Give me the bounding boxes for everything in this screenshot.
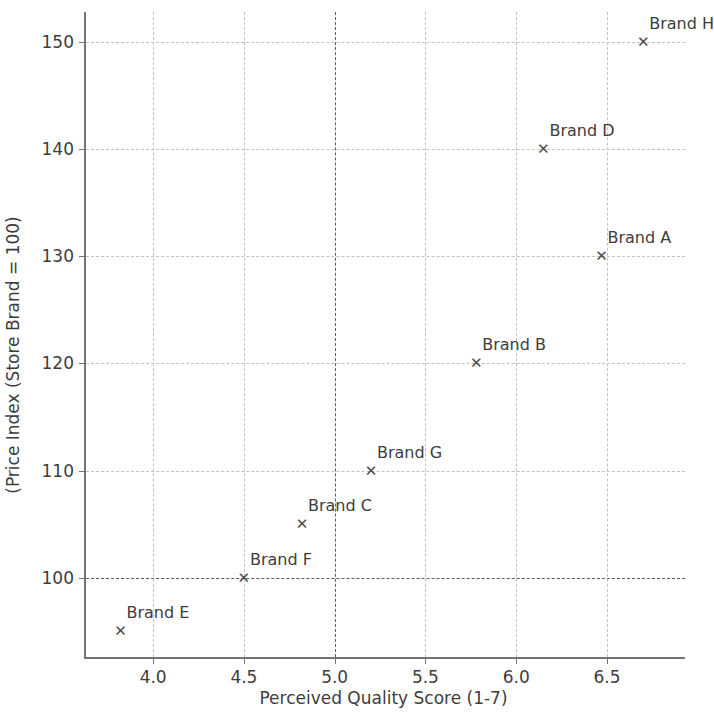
x-axis-tick-label: 4.5 bbox=[230, 667, 257, 687]
y-axis-tick bbox=[79, 363, 86, 364]
gridline-vertical bbox=[153, 12, 154, 657]
x-axis-tick-label: 6.5 bbox=[593, 667, 620, 687]
y-axis-tick-label: 140 bbox=[42, 139, 74, 159]
data-point-marker-icon: ✕ bbox=[238, 570, 251, 585]
y-axis-tick-label: 100 bbox=[42, 568, 74, 588]
x-axis-tick-label: 6.0 bbox=[503, 667, 530, 687]
data-point-label: Brand A bbox=[608, 228, 672, 247]
y-axis-tick-label: 130 bbox=[42, 246, 74, 266]
x-axis-tick-label: 5.5 bbox=[412, 667, 439, 687]
reference-line-vertical bbox=[335, 12, 336, 657]
data-point-label: Brand D bbox=[549, 121, 614, 140]
y-axis-tick bbox=[79, 578, 86, 579]
y-axis-tick-label: 150 bbox=[42, 32, 74, 52]
data-point-label: Brand B bbox=[482, 335, 546, 354]
y-axis-tick bbox=[79, 471, 86, 472]
y-axis-label: (Price Index (Store Brand = 100) bbox=[0, 26, 26, 684]
y-axis-tick-label: 120 bbox=[42, 353, 74, 373]
gridline-horizontal bbox=[86, 42, 685, 43]
x-axis-tick bbox=[153, 657, 154, 664]
plot-area: ✕Brand H✕Brand D✕Brand A✕Brand B✕Brand G… bbox=[84, 12, 685, 659]
gridline-horizontal bbox=[86, 471, 685, 472]
x-axis-tick bbox=[516, 657, 517, 664]
plot-inner: ✕Brand H✕Brand D✕Brand A✕Brand B✕Brand G… bbox=[86, 12, 685, 657]
data-point-marker-icon: ✕ bbox=[537, 142, 550, 157]
gridline-horizontal bbox=[86, 149, 685, 150]
x-axis-tick bbox=[607, 657, 608, 664]
y-axis-tick-label: 110 bbox=[42, 461, 74, 481]
data-point-label: Brand C bbox=[308, 496, 372, 515]
x-axis-label: Perceived Quality Score (1-7) bbox=[84, 688, 683, 708]
x-axis-tick bbox=[425, 657, 426, 664]
x-axis-tick-label: 5.0 bbox=[321, 667, 348, 687]
y-axis-tick bbox=[79, 149, 86, 150]
data-point-marker-icon: ✕ bbox=[470, 356, 483, 371]
y-axis-tick bbox=[79, 42, 86, 43]
data-point-label: Brand H bbox=[649, 14, 714, 33]
x-axis-tick bbox=[244, 657, 245, 664]
data-point-marker-icon: ✕ bbox=[296, 517, 309, 532]
x-axis-tick bbox=[335, 657, 336, 664]
data-point-marker-icon: ✕ bbox=[114, 624, 127, 639]
gridline-horizontal bbox=[86, 363, 685, 364]
gridline-vertical bbox=[425, 12, 426, 657]
data-point-label: Brand F bbox=[250, 550, 312, 569]
gridline-vertical bbox=[244, 12, 245, 657]
data-point-marker-icon: ✕ bbox=[365, 463, 378, 478]
data-point-marker-icon: ✕ bbox=[595, 249, 608, 264]
y-axis-tick bbox=[79, 256, 86, 257]
data-point-marker-icon: ✕ bbox=[637, 35, 650, 50]
gridline-vertical bbox=[607, 12, 608, 657]
data-point-label: Brand E bbox=[126, 603, 189, 622]
x-axis-tick-label: 4.0 bbox=[140, 667, 167, 687]
data-point-label: Brand G bbox=[377, 443, 442, 462]
reference-line-horizontal bbox=[86, 578, 685, 579]
